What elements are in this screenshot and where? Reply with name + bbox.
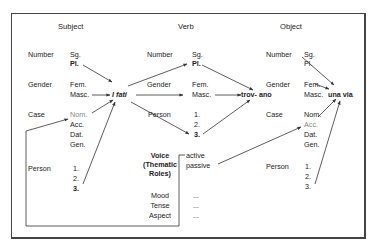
object-person-3: 3. [305, 182, 311, 191]
voice-label-2: (Thematic [140, 160, 180, 169]
object-case-nom: Nom. [304, 110, 321, 119]
subject-person-label: Person [28, 164, 51, 173]
object-case-gen: Gen. [304, 140, 320, 149]
object-number-pl: Pl. [304, 59, 312, 68]
object-case-dat: Dat. [304, 130, 317, 139]
subject-gender-masc: Masc. [70, 90, 89, 99]
verb-person-2: 2. [194, 120, 200, 129]
subject-word: I fati [112, 90, 127, 99]
verb-title: Verb [178, 22, 194, 31]
verb-person-3: 3. [194, 130, 200, 139]
verb-gender-fem: Fem. [192, 80, 208, 89]
object-number-label: Number [266, 50, 292, 59]
voice-label-1: Voice [140, 151, 180, 160]
verb-word: trov- ano [241, 90, 272, 99]
object-gender-label: Gender [266, 80, 290, 89]
subject-person-3: 3. [73, 184, 79, 193]
subject-number-sg: Sg. [70, 50, 81, 59]
verb-person-1: 1. [194, 110, 200, 119]
voice-active: active [186, 151, 205, 160]
subject-case-dat: Dat. [70, 130, 83, 139]
verb-number-label: Number [147, 50, 173, 59]
mood-value: ... [193, 191, 199, 200]
object-person-1: 1. [305, 162, 311, 171]
verb-number-sg: Sg. [192, 50, 203, 59]
tense-value: ... [193, 201, 199, 210]
verb-number-pl: Pl. [192, 59, 201, 68]
object-gender-fem: Fem. [304, 80, 320, 89]
subject-case-nom: Nom. [70, 110, 87, 119]
subject-person-1: 1. [73, 164, 79, 173]
mood-label: Mood [140, 191, 180, 200]
subject-case-gen: Gen. [70, 140, 86, 149]
subject-gender-label: Gender [28, 80, 52, 89]
object-gender-masc: Masc. [304, 90, 323, 99]
subject-number-label: Number [28, 50, 54, 59]
subject-case-acc: Acc. [70, 120, 84, 129]
voice-passive: passive [186, 161, 210, 170]
verb-person-label: Person [148, 110, 171, 119]
connector-lines [0, 0, 376, 251]
subject-number-pl: Pl. [70, 59, 79, 68]
object-case-label: Case [266, 110, 283, 119]
object-case-acc: Acc. [304, 120, 318, 129]
aspect-label: Aspect [140, 211, 180, 220]
subject-title: Subject [58, 22, 83, 31]
verb-gender-masc: Masc. [192, 90, 211, 99]
subject-person-2: 2. [73, 174, 79, 183]
voice-label-3: Roles) [140, 169, 180, 178]
verb-gender-label: Gender [147, 80, 171, 89]
tense-label: Tense [140, 201, 180, 210]
object-person-label: Person [266, 162, 289, 171]
object-word: una via [328, 90, 353, 99]
object-person-2: 2. [305, 172, 311, 181]
subject-case-label: Case [28, 110, 45, 119]
aspect-value: ... [193, 211, 199, 220]
object-number-sg: Sg. [304, 50, 315, 59]
object-title: Object [280, 22, 302, 31]
subject-gender-fem: Fem. [70, 80, 86, 89]
